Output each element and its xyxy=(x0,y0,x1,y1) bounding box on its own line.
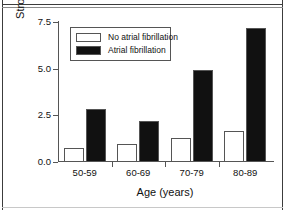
bar xyxy=(171,138,191,161)
filled-square-swatch-icon xyxy=(76,46,101,55)
legend-entry-label: Atrial fibrillation xyxy=(108,45,166,56)
open-square-swatch-icon xyxy=(76,33,101,42)
frame-top-rule xyxy=(2,4,283,5)
bar xyxy=(117,144,137,161)
frame-right-rule xyxy=(282,0,283,210)
y-tick-mark xyxy=(53,162,58,163)
y-tick-mark xyxy=(53,22,58,23)
y-tick-label: 5.0 xyxy=(38,62,51,75)
frame-left-rule xyxy=(2,0,3,210)
figure-panel: Stroke Rate (% per year) 0.02.55.07.5 50… xyxy=(0,0,285,210)
y-axis-line xyxy=(58,21,59,162)
bar xyxy=(139,121,159,161)
x-category-label: 80-89 xyxy=(233,167,257,178)
bar xyxy=(64,148,84,161)
bar xyxy=(86,109,106,161)
y-tick-mark xyxy=(53,69,58,70)
bar xyxy=(193,70,213,161)
x-tick-mark xyxy=(165,162,166,167)
x-tick-mark xyxy=(112,162,113,167)
y-tick-mark xyxy=(53,115,58,116)
y-axis-label: Stroke Rate (% per year) xyxy=(14,0,26,32)
chart-legend: No atrial fibrillation Atrial fibrillati… xyxy=(70,27,171,61)
legend-entry-label: No atrial fibrillation xyxy=(108,32,178,43)
x-axis-label: Age (years) xyxy=(58,186,272,198)
y-tick-label: 0.0 xyxy=(38,155,51,168)
bar xyxy=(246,28,266,161)
bar xyxy=(224,131,244,161)
legend-entry: Atrial fibrillation xyxy=(76,45,165,56)
x-category-label: 70-79 xyxy=(180,167,204,178)
x-tick-mark xyxy=(219,162,220,167)
legend-entry: No atrial fibrillation xyxy=(76,32,165,43)
frame-top-secondary-rule xyxy=(2,7,283,8)
y-tick-label: 7.5 xyxy=(38,15,51,28)
frame-bottom-rule xyxy=(2,207,283,208)
y-tick-label: 2.5 xyxy=(38,108,51,121)
x-category-label: 60-69 xyxy=(126,167,150,178)
x-category-label: 50-59 xyxy=(73,167,97,178)
x-axis-line xyxy=(58,161,274,162)
